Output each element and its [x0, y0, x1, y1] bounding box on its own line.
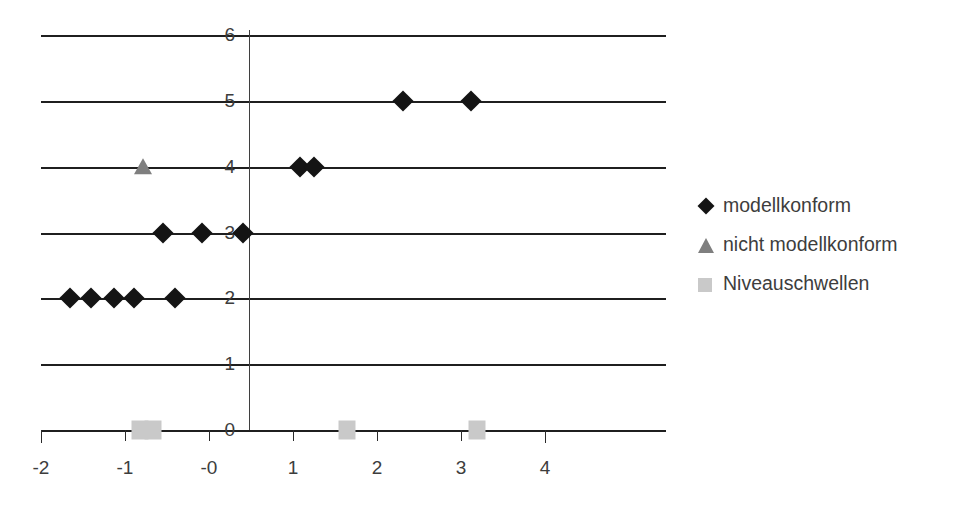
y-axis-tick-label: 6 [203, 24, 235, 46]
x-axis-tick-label: 3 [456, 457, 467, 479]
x-axis-tick-label: 2 [372, 457, 383, 479]
x-axis-tick-label: -1 [117, 457, 134, 479]
data-point-diamond [81, 288, 102, 309]
data-point-square [468, 421, 485, 440]
plot-area: -2-1-012340123456 [0, 0, 700, 514]
y-axis-tick-label: 2 [203, 287, 235, 309]
y-axis-tick-label: 1 [203, 353, 235, 375]
data-point-square [338, 421, 355, 440]
x-axis-tick [293, 430, 294, 441]
x-axis-tick [377, 430, 378, 441]
data-point-diamond [303, 156, 324, 177]
chart-legend: modellkonform nicht modellkonform Niveau… [697, 186, 957, 303]
x-axis-tick-label: 4 [540, 457, 551, 479]
diamond-marker-icon [697, 195, 719, 217]
data-point-diamond [124, 288, 145, 309]
data-point-diamond [164, 288, 185, 309]
x-axis-tick [461, 430, 462, 441]
x-axis-tick [125, 430, 126, 441]
x-axis-tick-label: -2 [33, 457, 50, 479]
data-point-diamond [60, 288, 81, 309]
data-point-diamond [460, 90, 481, 111]
data-point-triangle [134, 158, 152, 174]
legend-item-nicht-modellkonform[interactable]: nicht modellkonform [697, 225, 957, 264]
x-axis-tick-label: 1 [288, 457, 299, 479]
y-axis-tick-label: 5 [203, 90, 235, 112]
gridline-horizontal [41, 101, 666, 103]
x-axis-tick [545, 430, 546, 443]
gridline-horizontal [41, 364, 666, 366]
legend-item-label: modellkonform [719, 194, 851, 217]
y-axis-tick-label: 4 [203, 156, 235, 178]
data-point-diamond [232, 222, 253, 243]
x-axis-tick-label: -0 [201, 457, 218, 479]
legend-item-label: nicht modellkonform [719, 233, 898, 256]
x-axis-tick [41, 430, 42, 443]
legend-item-modellkonform[interactable]: modellkonform [697, 186, 957, 225]
legend-item-niveauschwellen[interactable]: Niveauschwellen [697, 264, 957, 303]
gridline-horizontal [41, 35, 666, 37]
legend-item-label: Niveauschwellen [719, 272, 869, 295]
scatter-chart: -2-1-012340123456 modellkonform nicht mo… [0, 0, 965, 514]
y-axis-tick-label: 0 [203, 419, 235, 441]
data-point-square [144, 421, 161, 440]
data-point-diamond [152, 222, 173, 243]
data-point-diamond [392, 90, 413, 111]
triangle-marker-icon [697, 234, 719, 256]
data-point-diamond [103, 288, 124, 309]
gridline-horizontal [41, 233, 666, 235]
square-marker-icon [697, 273, 719, 295]
